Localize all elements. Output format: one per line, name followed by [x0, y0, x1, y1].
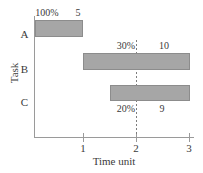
x-tick-label-3: 3 — [179, 142, 199, 155]
bar-task-b — [83, 53, 190, 70]
y-axis-title: Task — [8, 51, 20, 95]
bar-task-a — [35, 20, 83, 37]
x-tick-label-2: 2 — [126, 142, 146, 155]
annotation-a-value: 5 — [61, 7, 95, 19]
annotation-b-value: 10 — [147, 40, 181, 52]
category-label-c: C — [18, 96, 31, 108]
x-axis-title: Time unit — [34, 155, 194, 168]
category-label-a: A — [18, 28, 31, 40]
x-axis-line — [34, 137, 194, 138]
annotation-c-percent: 20% — [109, 103, 143, 115]
gantt-bar-chart: 1 2 3 A B C Task Time unit 100% 5 30% 10… — [0, 0, 203, 173]
annotation-a-percent: 100% — [30, 7, 64, 19]
annotation-b-percent: 30% — [109, 40, 143, 52]
annotation-c-value: 9 — [145, 103, 179, 115]
bar-task-c — [110, 85, 190, 101]
x-tick-3 — [189, 133, 190, 142]
x-tick-label-1: 1 — [73, 142, 93, 155]
x-tick-1 — [83, 133, 84, 142]
